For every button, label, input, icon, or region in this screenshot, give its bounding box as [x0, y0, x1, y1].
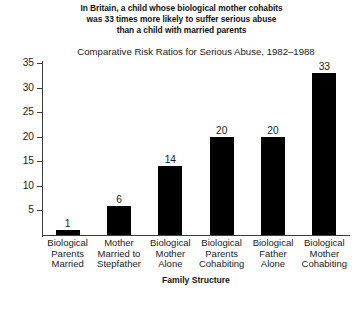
- y-axis-tick-label: 25: [0, 107, 34, 117]
- y-axis-tick-label: 30: [0, 83, 34, 93]
- x-axis-category-label: MotherMarried toStepfather: [92, 238, 146, 270]
- bar-group: 1: [42, 63, 93, 235]
- plot-area: 1614202033: [42, 63, 350, 235]
- headline-block: In Britain, a child whose biological mot…: [0, 0, 363, 37]
- bar[interactable]: [312, 73, 336, 235]
- x-axis-category-label: BiologicalMotherCohabiting: [297, 238, 351, 270]
- bar-group: 20: [196, 63, 247, 235]
- x-axis-line: [42, 235, 350, 236]
- bar-value-label: 14: [145, 154, 196, 165]
- x-axis-category-label: BiologicalParentsMarried: [41, 238, 95, 270]
- bar-value-label: 20: [247, 125, 298, 136]
- bar[interactable]: [210, 137, 234, 235]
- x-axis-category-label: BiologicalMotherAlone: [143, 238, 197, 270]
- x-axis-category-label: BiologicalParentsCohabiting: [195, 238, 249, 270]
- x-axis-title: Family Structure: [42, 275, 350, 285]
- bar-group: 14: [145, 63, 196, 235]
- y-axis-tick-label: 35: [0, 58, 34, 68]
- y-axis-tick-label: 5: [0, 205, 34, 215]
- y-axis-tick-label: 15: [0, 156, 34, 166]
- bar[interactable]: [56, 230, 80, 235]
- chart-title: Comparative Risk Ratios for Serious Abus…: [46, 46, 346, 58]
- bar[interactable]: [158, 166, 182, 235]
- headline-line-1: In Britain, a child whose biological mot…: [0, 3, 363, 14]
- bar-value-label: 20: [196, 125, 247, 136]
- y-axis-tick-label: 10: [0, 181, 34, 191]
- headline-line-2: was 33 times more likely to suffer serio…: [0, 14, 363, 25]
- bar-chart-figure: Comparative Risk Ratios for Serious Abus…: [0, 42, 363, 313]
- bar-group: 6: [93, 63, 144, 235]
- bar[interactable]: [107, 206, 131, 235]
- y-axis-tick-label: 20: [0, 132, 34, 142]
- bar[interactable]: [261, 137, 285, 235]
- bar-value-label: 1: [42, 218, 93, 229]
- bar-value-label: 6: [93, 194, 144, 205]
- bar-group: 33: [299, 63, 350, 235]
- x-axis-category-label: BiologicalFatherAlone: [246, 238, 300, 270]
- headline-line-3: than a child with married parents: [0, 25, 363, 36]
- bar-value-label: 33: [299, 61, 350, 72]
- bar-group: 20: [247, 63, 298, 235]
